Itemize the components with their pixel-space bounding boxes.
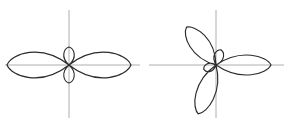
polar-plot-right	[144, 0, 288, 125]
figure-panel	[0, 0, 288, 125]
polar-rose-svg-right	[144, 0, 288, 125]
polar-plot-left	[0, 0, 144, 125]
rose-curve-right	[185, 27, 271, 114]
polar-rose-svg-left	[0, 0, 144, 125]
